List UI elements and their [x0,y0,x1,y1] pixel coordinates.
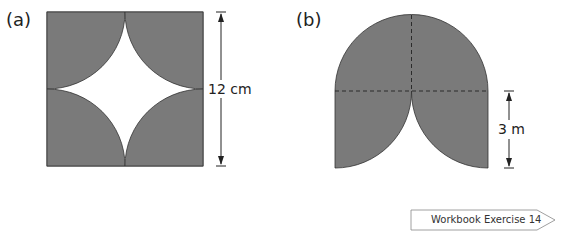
diagram-canvas [0,0,565,237]
arrow-down-icon [218,156,224,165]
figure-a [47,12,226,166]
figure-b [335,15,514,169]
dimension-label-b: 3 m [498,121,525,137]
arrow-up-icon [506,92,512,101]
arrow-up-icon [218,13,224,22]
arrow-down-icon [506,158,512,167]
dimension-label-a: 12 cm [208,81,252,97]
workbook-exercise-link[interactable]: Workbook Exercise 14 [431,214,541,225]
